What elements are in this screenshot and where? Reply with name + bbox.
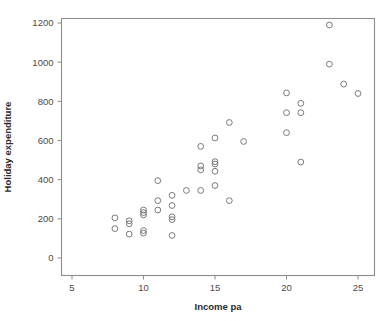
y-axis-title: Holiday expenditure: [2, 102, 13, 193]
x-axis-tick-label: 20: [281, 282, 292, 293]
x-axis-title: Income pa: [195, 301, 243, 312]
plot-canvas: 020040060080010001200 510152025 Income p…: [0, 0, 384, 321]
x-axis-tick-label: 10: [138, 282, 149, 293]
plot-background: [0, 0, 384, 321]
scatter-plot-figure: 020040060080010001200 510152025 Income p…: [0, 0, 384, 321]
y-axis-tick-label: 1200: [32, 17, 53, 28]
y-axis-tick-label: 400: [38, 174, 54, 185]
x-axis-tick-label: 25: [353, 282, 364, 293]
y-axis-tick-label: 200: [38, 213, 54, 224]
x-axis-tick-label: 5: [69, 282, 74, 293]
x-axis-tick-label: 15: [210, 282, 221, 293]
y-axis-tick-label: 0: [48, 252, 53, 263]
y-axis-tick-label: 800: [38, 96, 54, 107]
y-axis-tick-label: 1000: [32, 57, 53, 68]
y-axis-tick-label: 600: [38, 135, 54, 146]
